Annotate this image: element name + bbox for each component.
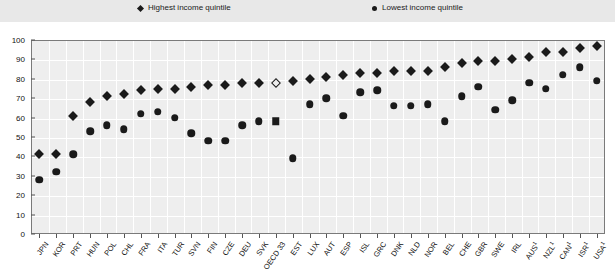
data-point xyxy=(390,102,398,110)
data-point xyxy=(356,89,364,97)
x-axis-tick-label: POL xyxy=(102,240,118,257)
gridline-vertical xyxy=(285,41,286,233)
data-point xyxy=(525,79,533,87)
gridline-vertical xyxy=(83,41,84,233)
y-axis-tick-label: 50 xyxy=(16,133,25,142)
legend-item-highest-income-quintile: Highest income quintile xyxy=(138,3,231,13)
gridline-horizontal xyxy=(32,177,604,178)
plot-area xyxy=(31,40,605,234)
data-point xyxy=(508,96,516,104)
y-axis-tick xyxy=(31,137,35,138)
gridline-vertical xyxy=(167,41,168,233)
y-axis-tick xyxy=(31,59,35,60)
x-axis-tick-label: ESP xyxy=(339,240,355,257)
gridline-vertical xyxy=(150,41,151,233)
gridline-vertical xyxy=(555,41,556,233)
gridline-vertical xyxy=(471,41,472,233)
data-point xyxy=(289,155,297,163)
x-axis-tick-label: ISR1 xyxy=(575,240,593,259)
gridline-vertical xyxy=(116,41,117,233)
gridline-vertical xyxy=(218,41,219,233)
y-axis-tick xyxy=(31,40,35,41)
gridline-vertical xyxy=(522,41,523,233)
x-axis-tick-label: GRC xyxy=(372,240,389,259)
data-point xyxy=(86,127,94,135)
gridline-horizontal xyxy=(32,119,604,120)
data-point xyxy=(458,93,466,101)
x-axis-labels: JPNKORPRTHUNPOLCHLFRAITATURSVNFINCZEDEUS… xyxy=(0,238,615,280)
data-point xyxy=(53,168,61,176)
data-point xyxy=(340,112,348,120)
x-axis-tick-label: ISL xyxy=(358,240,372,254)
data-point xyxy=(221,137,229,145)
y-axis-tick-label: 20 xyxy=(16,191,25,200)
x-axis-tick-label: CHL xyxy=(119,240,135,257)
y-axis-tick-label: 100 xyxy=(12,36,25,45)
x-axis-tick-label: LUX xyxy=(305,240,321,257)
gridline-horizontal xyxy=(32,99,604,100)
gridline-horizontal xyxy=(32,80,604,81)
data-point xyxy=(154,108,162,116)
gridline-vertical xyxy=(66,41,67,233)
y-axis-tick xyxy=(31,234,35,235)
gridline-vertical xyxy=(100,41,101,233)
data-point xyxy=(593,77,601,85)
gridline-vertical xyxy=(538,41,539,233)
x-axis-tick-label: GBR xyxy=(473,240,490,258)
gridline-vertical xyxy=(505,41,506,233)
legend-label-lowest: Lowest income quintile xyxy=(382,3,463,13)
gridline-horizontal xyxy=(32,157,604,158)
data-point xyxy=(492,106,500,114)
x-axis-tick-label: JPN xyxy=(35,240,51,257)
x-axis-tick-label: USA1 xyxy=(590,240,609,261)
y-axis-tick xyxy=(31,156,35,157)
x-axis-tick-label: CAN1 xyxy=(556,240,575,262)
diamond-icon xyxy=(137,4,144,11)
gridline-vertical xyxy=(251,41,252,233)
y-axis-tick xyxy=(31,195,35,196)
y-axis-tick xyxy=(31,98,35,99)
data-point xyxy=(36,176,44,184)
data-point xyxy=(69,151,77,159)
gridline-vertical xyxy=(201,41,202,233)
data-point xyxy=(475,83,483,91)
gridline-horizontal xyxy=(32,138,604,139)
scatter-chart: Highest income quintile Lowest income qu… xyxy=(0,0,615,280)
gridline-vertical xyxy=(133,41,134,233)
gridline-horizontal xyxy=(32,60,604,61)
x-axis-tick-label: AUT xyxy=(322,240,338,257)
data-point xyxy=(576,63,584,71)
y-axis-labels: 0102030405060708090100 xyxy=(0,40,29,234)
gridline-vertical xyxy=(387,41,388,233)
gridline-horizontal xyxy=(32,196,604,197)
x-axis-tick-label: NZL1 xyxy=(540,240,558,260)
gridline-vertical xyxy=(235,41,236,233)
y-axis-tick-label: 30 xyxy=(16,171,25,180)
x-axis-tick-label: CZE xyxy=(221,240,237,257)
gridline-vertical xyxy=(268,41,269,233)
y-axis-tick-label: 10 xyxy=(16,210,25,219)
y-axis-tick xyxy=(31,117,35,118)
data-point xyxy=(205,137,213,145)
gridline-vertical xyxy=(336,41,337,233)
y-axis-tick xyxy=(31,175,35,176)
x-axis-tick-label: KOR xyxy=(51,240,68,258)
gridline-horizontal xyxy=(32,216,604,217)
data-point xyxy=(559,71,567,79)
data-point xyxy=(272,118,280,126)
x-axis-tick-label: EST xyxy=(288,240,304,257)
data-point xyxy=(441,118,449,126)
gridline-vertical xyxy=(353,41,354,233)
x-axis-tick-label: DNK xyxy=(389,240,405,258)
y-axis-tick-label: 70 xyxy=(16,94,25,103)
x-axis-tick-label: SWE xyxy=(489,240,506,259)
gridline-vertical xyxy=(488,41,489,233)
x-axis-tick-label: ITA xyxy=(155,240,169,254)
data-point xyxy=(407,102,415,110)
x-axis-tick-label: CHE xyxy=(456,240,472,258)
data-point xyxy=(255,118,263,126)
gridline-vertical xyxy=(572,41,573,233)
gridline-vertical xyxy=(184,41,185,233)
data-point xyxy=(424,100,432,108)
y-axis-tick-label: 60 xyxy=(16,113,25,122)
